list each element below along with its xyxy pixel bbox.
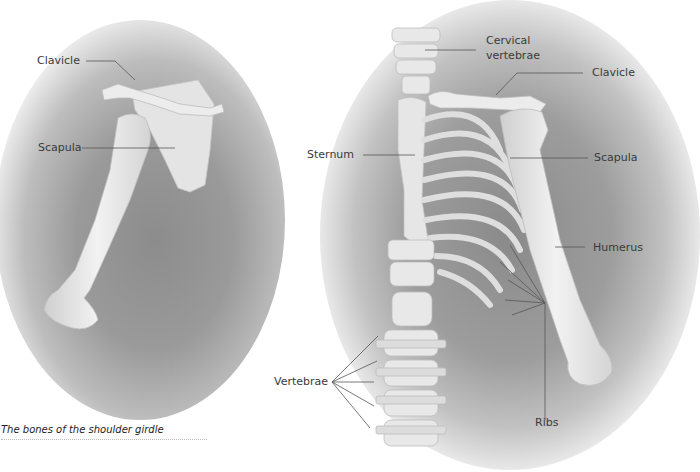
label-ribs: Ribs (535, 416, 558, 429)
label-right-scapula: Scapula (594, 151, 638, 164)
label-humerus: Humerus (593, 241, 643, 254)
figure-caption: The bones of the shoulder girdle (1, 424, 164, 435)
thoracic-vertebrae (376, 240, 446, 446)
label-right-clavicle: Clavicle (592, 66, 635, 79)
label-sternum: Sternum (307, 148, 354, 161)
label-cervical-vertebrae-line1: Cervical (486, 34, 530, 47)
cervical-vertebrae (392, 28, 440, 94)
caption-divider (1, 439, 207, 440)
label-vertebrae: Vertebrae (274, 375, 328, 388)
label-left-clavicle: Clavicle (37, 54, 80, 67)
label-left-scapula: Scapula (38, 141, 82, 154)
label-cervical-vertebrae-line2: vertebrae (486, 49, 540, 62)
